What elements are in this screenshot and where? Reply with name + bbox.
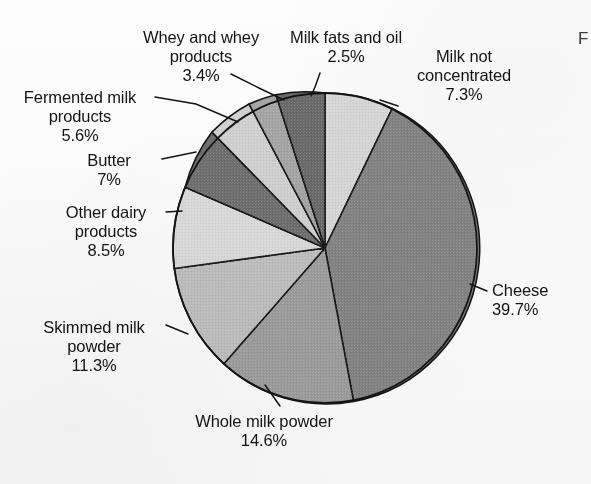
label-cheese-percent: 39.7% — [492, 300, 588, 319]
label-milk-fats-percent: 2.5% — [276, 47, 416, 66]
label-whole-milk-line1: Whole milk powder — [195, 412, 333, 430]
label-milk-not-concentrated: Milk not concentrated 7.3% — [400, 47, 528, 103]
label-butter-percent: 7% — [58, 170, 160, 189]
label-skimmed-line1: Skimmed milk — [43, 318, 144, 336]
label-cheese: Cheese 39.7% — [492, 281, 588, 319]
label-whey-line2: products — [170, 47, 233, 65]
label-skimmed-line2: powder — [67, 337, 121, 355]
label-fermented-line1: Fermented milk — [24, 88, 136, 106]
label-other-dairy-percent: 8.5% — [48, 241, 164, 260]
leader-line-other-dairy — [166, 211, 182, 212]
label-butter-line1: Butter — [87, 151, 130, 169]
label-skimmed-percent: 11.3% — [24, 356, 164, 375]
label-skimmed-milk-powder: Skimmed milk powder 11.3% — [24, 318, 164, 374]
label-milk-fats-and-oil: Milk fats and oil 2.5% — [276, 28, 416, 66]
label-whole-milk-powder: Whole milk powder 14.6% — [176, 412, 352, 450]
figure-caption-fragment: F — [578, 29, 591, 49]
label-fermented-percent: 5.6% — [4, 126, 156, 145]
label-fermented-milk-products: Fermented milk products 5.6% — [4, 88, 156, 144]
leader-line-fermented — [155, 97, 238, 122]
label-whey-percent: 3.4% — [126, 66, 276, 85]
label-other-dairy-line1: Other dairy — [66, 203, 147, 221]
label-milk-not-concentrated-percent: 7.3% — [400, 85, 528, 104]
label-milk-fats-line1: Milk fats and oil — [290, 28, 402, 46]
leader-line-skimmed — [166, 325, 188, 334]
label-milk-not-concentrated-line1: Milk not — [436, 47, 492, 65]
label-fermented-line2: products — [49, 107, 112, 125]
label-other-dairy-line2: products — [75, 222, 138, 240]
figure-page: Whey and whey products 3.4% Milk fats an… — [0, 0, 591, 484]
label-cheese-line1: Cheese — [492, 281, 548, 299]
label-whole-milk-percent: 14.6% — [176, 431, 352, 450]
leader-line-butter — [162, 152, 196, 159]
label-milk-not-concentrated-line2: concentrated — [417, 66, 511, 84]
label-butter: Butter 7% — [58, 151, 160, 189]
label-whey-and-whey-products: Whey and whey products 3.4% — [126, 28, 276, 84]
label-whey-line1: Whey and whey — [143, 28, 259, 46]
label-other-dairy-products: Other dairy products 8.5% — [48, 203, 164, 259]
